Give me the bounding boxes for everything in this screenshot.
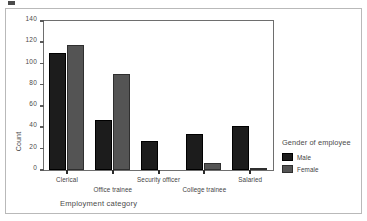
x-axis-tick-mark [249, 170, 251, 174]
bar-female[interactable] [204, 163, 221, 170]
bar-group [139, 21, 185, 170]
bar-male[interactable] [95, 120, 112, 170]
x-axis-title: Employment category [60, 199, 137, 208]
legend-swatch-male-icon [282, 153, 293, 161]
y-axis-tick-label: 120 [26, 36, 37, 43]
x-axis-category-label: College trainee [173, 186, 235, 193]
stray-mark-icon [8, 1, 15, 5]
legend-title: Gender of employee [282, 138, 362, 147]
y-axis-tick-label: 140 [26, 15, 37, 22]
y-axis-tick-label: 0 [33, 164, 37, 171]
x-axis-category-label: Clerical [36, 176, 98, 183]
bar-groups [44, 21, 273, 170]
y-axis-title: Count [15, 112, 22, 172]
plot-area [44, 21, 273, 170]
x-axis-category-label: Salaried [219, 176, 281, 183]
bar-chart-figure: Count 020406080100120140 Employment cate… [0, 0, 367, 221]
bar-group [230, 21, 276, 170]
x-axis-category-label: Security officer [128, 176, 190, 183]
legend: Gender of employee Male Female [282, 138, 362, 177]
y-axis-tick-label: 100 [26, 58, 37, 65]
bar-female[interactable] [113, 74, 130, 170]
legend-label-female: Female [297, 166, 319, 173]
y-axis-tick-label: 80 [29, 79, 37, 86]
bar-male[interactable] [232, 126, 249, 170]
x-axis-tick-mark [112, 170, 114, 174]
x-axis-tick-mark [203, 170, 205, 174]
y-axis: Count 020406080100120140 [0, 20, 44, 172]
y-axis-tick-label: 40 [29, 121, 37, 128]
bar-group [184, 21, 230, 170]
bar-male[interactable] [141, 141, 158, 170]
x-axis-tick-mark [66, 170, 68, 174]
bar-female[interactable] [250, 168, 267, 170]
legend-item-male: Male [282, 153, 362, 161]
bar-group [47, 21, 93, 170]
legend-label-male: Male [297, 154, 311, 161]
x-axis-tick-mark [158, 170, 160, 174]
legend-swatch-female-icon [282, 165, 293, 173]
y-axis-tick-label: 60 [29, 100, 37, 107]
bar-male[interactable] [49, 53, 66, 170]
bar-female[interactable] [67, 45, 84, 170]
legend-item-female: Female [282, 165, 362, 173]
y-axis-tick-label: 20 [29, 143, 37, 150]
x-axis-category-label: Office trainee [82, 186, 144, 193]
bar-group [93, 21, 139, 170]
bar-male[interactable] [186, 134, 203, 170]
